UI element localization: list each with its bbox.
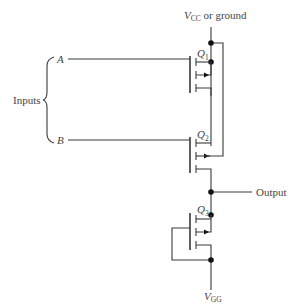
- inputs-brace: [43, 57, 54, 143]
- svg-text:1: 1: [205, 53, 209, 62]
- transistor-q3: Q 3: [172, 203, 214, 290]
- inputs-label: Inputs: [13, 94, 41, 106]
- junction-output: [208, 189, 214, 195]
- input-b-label: B: [57, 134, 64, 146]
- vcc-label: VCC or ground: [184, 9, 247, 23]
- junction-top: [208, 40, 214, 46]
- vgg-label: VGG: [204, 290, 222, 304]
- output-label: Output: [256, 186, 287, 198]
- svg-text:2: 2: [205, 134, 209, 143]
- svg-text:Q: Q: [197, 203, 205, 215]
- input-a-label: A: [56, 53, 64, 65]
- circuit-diagram: VCC or ground Q 1 Q 2 Output: [0, 0, 301, 307]
- svg-text:Q: Q: [197, 128, 205, 140]
- transistor-q2: Q 2: [190, 128, 211, 215]
- svg-text:Q: Q: [197, 47, 205, 59]
- svg-text:3: 3: [205, 209, 209, 218]
